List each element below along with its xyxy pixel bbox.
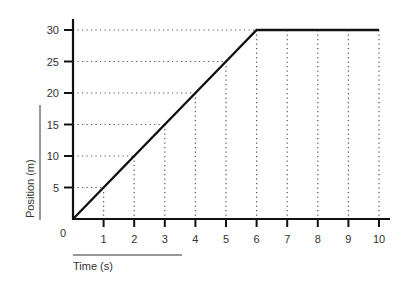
x-tick-label: 8 [315, 233, 321, 245]
y-tick-label: 20 [47, 87, 59, 99]
y-tick-label: 10 [47, 150, 59, 162]
dotted-guide-lines [73, 30, 379, 219]
position-time-chart: 1234567891051015202530 0 Position (m) Ti… [0, 0, 410, 283]
x-tick-label: 2 [131, 233, 137, 245]
y-tick-label: 15 [47, 119, 59, 131]
axes [72, 19, 390, 220]
x-tick-label: 4 [192, 233, 198, 245]
ticks [64, 30, 379, 227]
x-tick-label: 10 [373, 233, 385, 245]
y-tick-label: 25 [47, 56, 59, 68]
x-tick-label: 7 [284, 233, 290, 245]
x-tick-label: 9 [345, 233, 351, 245]
x-tick-label: 3 [162, 233, 168, 245]
x-axis-title: Time (s) [73, 260, 113, 272]
tick-labels: 1234567891051015202530 [47, 24, 385, 245]
y-tick-label: 5 [53, 182, 59, 194]
origin-label: 0 [60, 227, 66, 239]
x-tick-label: 1 [101, 233, 107, 245]
x-tick-label: 5 [223, 233, 229, 245]
y-axis-title: Position (m) [24, 159, 36, 218]
x-tick-label: 6 [254, 233, 260, 245]
y-tick-label: 30 [47, 24, 59, 36]
